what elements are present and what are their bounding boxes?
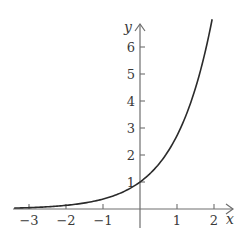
x-tick-label: 2 — [210, 213, 218, 228]
axes — [13, 24, 233, 228]
x-axis-label: x — [226, 211, 234, 227]
x-ticks: −3−2−112 — [19, 204, 218, 228]
y-tick-label: 2 — [127, 148, 135, 163]
exponential-plot: −3−2−112 123456 x y — [0, 0, 251, 247]
x-tick-label: 1 — [173, 213, 181, 228]
y-tick-label: 6 — [127, 40, 135, 55]
y-tick-label: 3 — [127, 121, 135, 136]
y-tick-label: 4 — [127, 94, 135, 109]
exponential-curve — [14, 19, 212, 208]
x-tick-label: −1 — [93, 213, 112, 228]
y-tick-label: 5 — [127, 67, 135, 82]
x-tick-label: −3 — [19, 213, 38, 228]
x-tick-label: −2 — [56, 213, 75, 228]
y-ticks: 123456 — [127, 40, 145, 190]
y-axis-label: y — [123, 19, 133, 35]
